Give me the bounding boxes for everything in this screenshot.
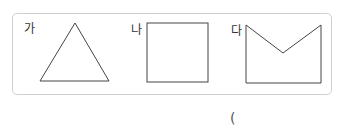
notched-pentagon-shape	[246, 25, 321, 83]
answer-paren: (	[230, 110, 235, 126]
triangle-shape	[40, 23, 109, 81]
square-shape	[147, 23, 208, 82]
figures-canvas	[0, 0, 343, 137]
